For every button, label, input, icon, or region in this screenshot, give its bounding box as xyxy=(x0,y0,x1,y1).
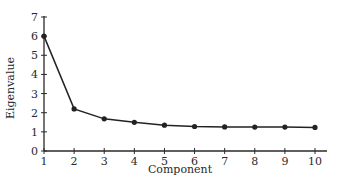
x-tick-label: 1 xyxy=(41,155,48,168)
data-point-marker xyxy=(102,116,107,121)
y-tick-label: 2 xyxy=(31,107,38,120)
y-tick-label: 6 xyxy=(31,30,38,43)
x-tick-label: 7 xyxy=(221,155,228,168)
x-tick-label: 3 xyxy=(101,155,108,168)
series-line xyxy=(44,36,315,127)
data-point-marker xyxy=(41,34,46,39)
y-tick-label: 5 xyxy=(31,49,38,62)
x-tick-label: 9 xyxy=(281,155,288,168)
y-tick-label: 7 xyxy=(31,11,38,24)
y-axis-label: Eigenvalue xyxy=(4,57,17,119)
data-point-marker xyxy=(312,125,317,130)
data-point-marker xyxy=(282,124,287,129)
scree-plot: 01234567 12345678910 Eigenvalue Componen… xyxy=(0,0,339,186)
x-axis-label: Component xyxy=(148,163,213,176)
y-tick-label: 3 xyxy=(31,88,38,101)
y-tick-label: 4 xyxy=(31,68,38,81)
data-point-marker xyxy=(132,120,137,125)
y-tick-label: 0 xyxy=(31,145,38,158)
data-point-marker xyxy=(192,124,197,129)
data-point-marker xyxy=(162,123,167,128)
data-series xyxy=(41,34,317,131)
x-tick-label: 8 xyxy=(251,155,258,168)
x-tick-label: 10 xyxy=(308,155,322,168)
data-point-marker xyxy=(252,124,257,129)
data-point-marker xyxy=(222,124,227,129)
x-tick-label: 2 xyxy=(71,155,78,168)
y-tick-label: 1 xyxy=(31,126,38,139)
x-tick-label: 4 xyxy=(131,155,138,168)
data-point-marker xyxy=(72,106,77,111)
y-axis: 01234567 xyxy=(31,11,47,158)
